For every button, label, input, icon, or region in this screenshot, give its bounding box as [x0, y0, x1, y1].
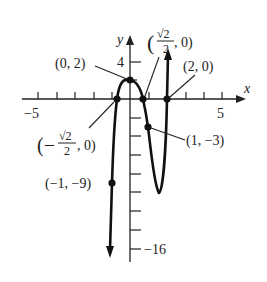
- function-graph: x y −5 5 4 −16 (0, 2) (2, 0) (1, −3) (−1…: [0, 0, 267, 282]
- x-axis-label: x: [243, 81, 251, 96]
- svg-text:, 0): , 0): [77, 138, 96, 154]
- x-axis-arrow-icon: [236, 95, 246, 103]
- y-tick-label-4: 4: [117, 55, 124, 70]
- label-0-2: (0, 2): [55, 56, 86, 72]
- x-tick-label-5: 5: [217, 106, 224, 121]
- point-neg1-neg9: [108, 179, 115, 186]
- svg-text:, 0): , 0): [174, 35, 193, 51]
- y-axis-arrow-icon: [126, 35, 134, 45]
- svg-text:(: (: [147, 30, 154, 55]
- point-1-neg3: [144, 123, 151, 130]
- svg-text:√2: √2: [59, 129, 72, 143]
- label-2-0: (2, 0): [183, 59, 214, 75]
- label-1-neg3: (1, −3): [186, 133, 225, 149]
- y-axis-label: y: [115, 32, 124, 47]
- label-neg1-neg9: (−1, −9): [45, 176, 91, 192]
- svg-text:(−: (−: [37, 134, 55, 157]
- curve-arrow-down-icon: [106, 246, 114, 258]
- point-2-0: [163, 95, 170, 102]
- point-0-2: [126, 76, 133, 83]
- y-tick-label-neg16: −16: [144, 242, 166, 257]
- point-root2-over-2: [139, 95, 146, 102]
- point-neg-root2-over-2: [113, 95, 120, 102]
- x-tick-label-neg5: −5: [24, 106, 39, 121]
- label-root2-over-2: ( √2 2 , 0): [147, 27, 193, 56]
- svg-text:√2: √2: [157, 27, 170, 41]
- label-neg-root2-over-2: (− √2 2 , 0): [37, 129, 96, 158]
- svg-text:2: 2: [64, 144, 70, 158]
- function-curve: [110, 55, 168, 250]
- svg-text:2: 2: [163, 42, 169, 56]
